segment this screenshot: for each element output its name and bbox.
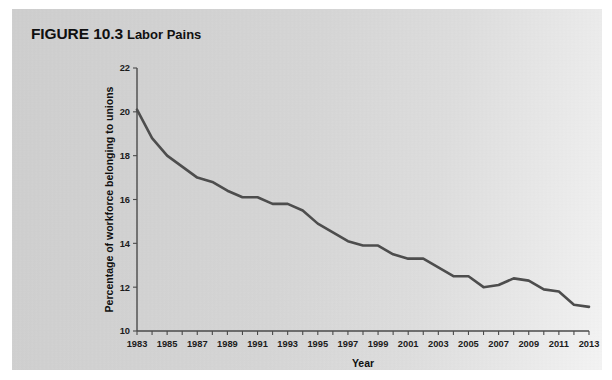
- chart-svg: 10121416182022 1983198519871989199119931…: [12, 9, 602, 370]
- x-tick-label: 2007: [488, 339, 509, 349]
- x-tick-label: 2013: [579, 339, 600, 349]
- union-membership-line: [137, 110, 589, 307]
- y-tick-label: 14: [120, 239, 131, 249]
- x-tick-label: 2009: [518, 339, 539, 349]
- x-tick-label: 2005: [458, 339, 479, 349]
- x-tick-label: 1987: [187, 339, 208, 349]
- x-tick-label: 1999: [368, 339, 389, 349]
- y-tick-label: 16: [120, 195, 130, 205]
- figure-panel: FIGURE 10.3Labor Pains 10121416182022 19…: [12, 9, 602, 370]
- x-tick-label: 2011: [549, 339, 569, 349]
- figure-page: FIGURE 10.3Labor Pains 10121416182022 19…: [0, 0, 612, 380]
- x-tick-label: 1995: [307, 339, 328, 349]
- y-axis-ticks: 10121416182022: [120, 63, 137, 336]
- x-tick-label: 1983: [127, 339, 148, 349]
- x-tick-label: 1985: [157, 339, 178, 349]
- x-tick-label: 1997: [338, 339, 359, 349]
- x-tick-label: 2001: [398, 339, 419, 349]
- y-tick-label: 10: [120, 326, 130, 336]
- x-axis-ticks: 1983198519871989199119931995199719992001…: [127, 331, 600, 349]
- y-tick-label: 22: [120, 63, 130, 73]
- y-axis-title: Percentage of workforce belonging to uni…: [103, 86, 115, 312]
- line-chart: 10121416182022 1983198519871989199119931…: [12, 9, 602, 370]
- y-tick-label: 20: [120, 107, 130, 117]
- x-tick-label: 2003: [428, 339, 449, 349]
- x-tick-label: 1989: [217, 339, 238, 349]
- x-tick-label: 1991: [247, 339, 268, 349]
- x-tick-label: 1993: [277, 339, 298, 349]
- y-tick-label: 12: [120, 283, 130, 293]
- y-tick-label: 18: [120, 151, 130, 161]
- x-axis-title: Year: [352, 357, 374, 369]
